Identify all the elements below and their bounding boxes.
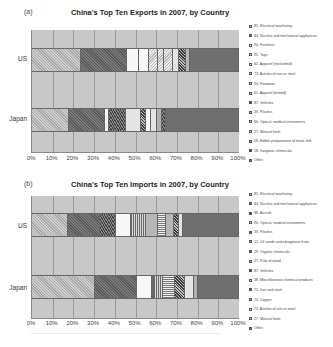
legend-swatch-icon — [249, 279, 252, 282]
bar-segment — [183, 214, 239, 236]
bar-segment — [149, 49, 158, 71]
legend-swatch-icon — [249, 221, 252, 224]
x-tick-label: 30% — [87, 155, 99, 161]
legend-item: 84. Nuclear and mechanical appliances — [249, 202, 333, 212]
legend-swatch-icon — [249, 260, 252, 263]
bar-segment — [116, 214, 132, 236]
legend-swatch-icon — [249, 149, 252, 152]
legend-label: 12. Oil seeds and oleaginous fruits — [254, 240, 309, 244]
bar-segment — [32, 276, 95, 298]
legend-swatch-icon — [249, 25, 252, 28]
legend-item: 47. Pulp of wood — [249, 259, 333, 269]
x-tick-label: 40% — [108, 320, 120, 326]
imports-legend: 85. Electrical machinery84. Nuclear and … — [249, 192, 333, 336]
x-tick-label: 0% — [27, 155, 36, 161]
legend-label: 90. Optical, medical instruments — [254, 120, 305, 124]
exports-chart-panel: (a) China's Top Ten Exports in 2007, by … — [0, 0, 333, 170]
legend-item: 94. Furniture — [249, 43, 333, 53]
bar-segment — [137, 276, 153, 298]
legend-swatch-icon — [249, 193, 252, 196]
legend-swatch-icon — [249, 92, 252, 95]
legend-label: 39. Plastics — [254, 110, 272, 114]
bar-segment — [95, 276, 136, 298]
category-label-japan: Japan — [9, 284, 27, 291]
x-tick-label: 80% — [191, 155, 203, 161]
legend-item: 62. Apparel (not knitted) — [249, 62, 333, 72]
legend-label: 90. Optical, medical instruments — [254, 221, 305, 225]
legend-item: 39. Plastics — [249, 230, 333, 240]
legend-swatch-icon — [249, 317, 252, 320]
bar-segment — [163, 276, 174, 298]
legend-label: 28. Inorganic chemicals — [254, 149, 292, 153]
x-tick-label: 70% — [170, 320, 182, 326]
imports-bar-japan — [32, 275, 239, 299]
exports-plot-area — [31, 30, 239, 153]
x-tick-label: 70% — [170, 155, 182, 161]
legend-item: 90. Optical, medical instruments — [249, 221, 333, 231]
legend-item: 85. Electrical machinery — [249, 24, 333, 34]
bar-segment — [166, 109, 238, 131]
legend-swatch-icon — [249, 111, 252, 114]
x-tick-label: 20% — [66, 155, 78, 161]
legend-label: 39. Plastics — [254, 230, 272, 234]
legend-item: 87. Vehicles — [249, 269, 333, 279]
bar-segment — [164, 49, 173, 71]
legend-item: 28. Inorganic chemicals — [249, 149, 333, 159]
legend-item: 74. Copper — [249, 298, 333, 308]
exports-bar-japan — [32, 108, 239, 132]
exports-chart-title: China's Top Ten Exports in 2007, by Coun… — [70, 8, 230, 17]
imports-x-axis: 0%10%20%30%40%50%60%70%80%90%100% — [31, 320, 238, 330]
legend-item: 85. Electrical machinery — [249, 192, 333, 202]
x-tick-label: 10% — [46, 320, 58, 326]
legend-label: 85. Electrical machinery — [254, 192, 292, 196]
legend-swatch-icon — [249, 240, 252, 243]
legend-label: 27. Mineral fuels — [254, 130, 280, 134]
legend-label: 47. Pulp of wood — [254, 259, 281, 263]
legend-item: 16. Edible preparations of meat, fish — [249, 139, 333, 149]
exports-legend: 85. Electrical machinery84. Nuclear and … — [249, 24, 333, 168]
legend-swatch-icon — [249, 231, 252, 234]
bar-segment — [190, 49, 239, 71]
legend-label: 64. Footwear — [254, 82, 275, 86]
legend-item: 61. Apparel (knitted) — [249, 91, 333, 101]
legend-swatch-icon — [249, 120, 252, 123]
legend-label: Other — [254, 326, 263, 330]
x-tick-label: 50% — [128, 155, 140, 161]
bar-segment — [131, 214, 145, 236]
legend-swatch-icon — [249, 308, 252, 311]
imports-bar-us — [32, 213, 239, 237]
legend-item: 39. Plastics — [249, 110, 333, 120]
x-tick-label: 100% — [230, 320, 245, 326]
x-tick-label: 60% — [149, 155, 161, 161]
x-tick-label: 20% — [66, 320, 78, 326]
legend-swatch-icon — [249, 130, 252, 133]
x-tick-label: 90% — [211, 155, 223, 161]
footer-divider — [30, 333, 220, 334]
bar-segment — [175, 276, 185, 298]
legend-label: 74. Copper — [254, 298, 272, 302]
x-tick-label: 90% — [211, 320, 223, 326]
bar-segment — [166, 214, 173, 236]
x-tick-label: 100% — [230, 155, 245, 161]
bar-segment — [158, 214, 166, 236]
legend-label: 38. Miscellaneous chemical products — [254, 278, 313, 282]
bar-segment — [185, 276, 194, 298]
legend-swatch-icon — [249, 298, 252, 301]
legend-label: 72. Iron and steel — [254, 288, 282, 292]
legend-item: 27. Mineral fuels — [249, 130, 333, 140]
legend-swatch-icon — [249, 212, 252, 215]
legend-item: 29. Organic chemicals — [249, 250, 333, 260]
bar-segment — [81, 49, 128, 71]
panel-label-b: (b) — [24, 180, 33, 187]
legend-swatch-icon — [249, 159, 252, 162]
legend-label: 87. Vehicles — [254, 101, 273, 105]
legend-item: 88. Aircraft — [249, 211, 333, 221]
legend-label: 27. Mineral fuels — [254, 317, 280, 321]
bar-segment — [32, 49, 81, 71]
exports-bar-us — [32, 48, 239, 72]
category-label-us: US — [18, 222, 27, 229]
legend-label: 16. Edible preparations of meat, fish — [254, 139, 312, 143]
legend-label: 61. Apparel (knitted) — [254, 91, 286, 95]
bar-segment — [146, 214, 158, 236]
bar-segment — [179, 49, 186, 71]
